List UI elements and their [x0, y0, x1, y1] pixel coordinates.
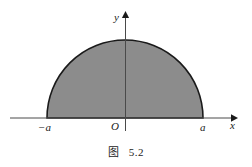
tick-label-positive-a: a — [200, 122, 206, 133]
x-axis-label: x — [230, 120, 235, 131]
y-axis-arrow-icon — [122, 11, 129, 18]
semicircle-diagram — [0, 0, 252, 167]
tick-label-negative-a: −a — [38, 122, 51, 133]
figure-container: y x O −a a 图5.2 — [0, 0, 252, 167]
figure-caption-label: 图 — [108, 146, 120, 159]
figure-caption: 图5.2 — [0, 143, 252, 159]
figure-caption-number: 5.2 — [129, 146, 144, 158]
y-axis-label: y — [114, 12, 119, 23]
origin-label: O — [111, 121, 119, 132]
